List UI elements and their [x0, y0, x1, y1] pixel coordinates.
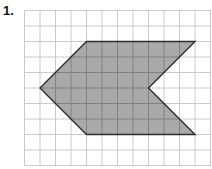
grid-figure — [0, 0, 212, 169]
